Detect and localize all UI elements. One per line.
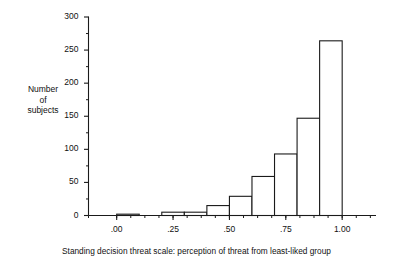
- x-tick-label: .25: [156, 225, 190, 234]
- x-tick-label: .50: [212, 225, 246, 234]
- x-axis-caption: Standing decision threat scale: percepti…: [0, 246, 393, 256]
- y-tick-label: 200: [51, 78, 79, 87]
- histogram-bar: [184, 212, 207, 215]
- histogram-figure: Number of subjects Standing decision thr…: [0, 0, 393, 268]
- y-tick-label: 150: [51, 111, 79, 120]
- histogram-bar: [229, 196, 252, 215]
- x-tick-label: 1.00: [325, 225, 359, 234]
- histogram-bar: [275, 154, 298, 216]
- histogram-bar: [207, 206, 230, 216]
- x-tick-label: .75: [269, 225, 303, 234]
- y-tick-label: 100: [51, 144, 79, 153]
- y-tick-label: 250: [51, 45, 79, 54]
- histogram-bar: [297, 118, 320, 215]
- y-tick-label: 50: [51, 177, 79, 186]
- y-tick-label: 300: [51, 12, 79, 21]
- y-tick-label: 0: [51, 211, 79, 220]
- histogram-bar: [117, 214, 140, 215]
- histogram-bar: [320, 41, 343, 216]
- histogram-bar: [162, 212, 185, 215]
- x-tick-label: .00: [100, 225, 134, 234]
- histogram-bar: [252, 176, 275, 215]
